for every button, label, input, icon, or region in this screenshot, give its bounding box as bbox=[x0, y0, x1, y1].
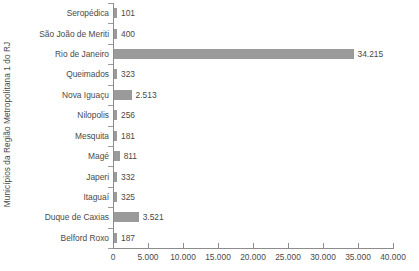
bar-chart: Municípios da Região Metropolitana 1 do … bbox=[0, 0, 419, 271]
y-tick bbox=[108, 64, 113, 65]
bar bbox=[114, 69, 117, 79]
x-tick bbox=[288, 243, 289, 249]
y-tick bbox=[108, 44, 113, 45]
bar-row: Rio de Janeiro34.215 bbox=[0, 44, 419, 64]
y-tick bbox=[108, 187, 113, 188]
bar bbox=[114, 151, 120, 161]
category-label: Rio de Janeiro bbox=[18, 49, 109, 59]
bar-row: Seropédica101 bbox=[0, 3, 419, 23]
category-label: Itaguaí bbox=[18, 192, 109, 202]
bar-value-label: 181 bbox=[121, 131, 135, 141]
y-tick bbox=[108, 126, 113, 127]
x-tick bbox=[113, 243, 114, 249]
bar-row: Magé811 bbox=[0, 146, 419, 166]
x-tick-label: 35.000 bbox=[345, 252, 371, 262]
bar-row: Belford Roxo187 bbox=[0, 228, 419, 248]
y-tick bbox=[108, 207, 113, 208]
bar bbox=[114, 192, 117, 202]
bar-row: Nilopolis256 bbox=[0, 105, 419, 125]
x-tick-label: 40.000 bbox=[380, 252, 406, 262]
x-tick-label: 20.000 bbox=[240, 252, 266, 262]
bar bbox=[114, 212, 139, 222]
bar-row: Itaguaí325 bbox=[0, 187, 419, 207]
x-tick bbox=[183, 243, 184, 249]
y-tick bbox=[108, 146, 113, 147]
bar-value-label: 256 bbox=[121, 110, 135, 120]
bar-row: Japeri332 bbox=[0, 166, 419, 186]
bar bbox=[114, 131, 117, 141]
bar-value-label: 811 bbox=[124, 151, 137, 161]
x-tick-label: 0 bbox=[111, 252, 116, 262]
bar bbox=[114, 29, 117, 39]
bar bbox=[114, 233, 117, 243]
x-tick-label: 30.000 bbox=[310, 252, 336, 262]
bar bbox=[114, 110, 117, 120]
bar bbox=[114, 90, 132, 100]
bar-row: Mesquita181 bbox=[0, 126, 419, 146]
category-label: Belford Roxo bbox=[18, 233, 109, 243]
x-tick bbox=[393, 243, 394, 249]
bar bbox=[114, 49, 354, 59]
x-tick-label: 15.000 bbox=[205, 252, 231, 262]
category-label: São João de Meriti bbox=[18, 29, 109, 39]
bar-value-label: 325 bbox=[121, 192, 135, 202]
x-tick-label: 25.000 bbox=[275, 252, 301, 262]
bar-value-label: 187 bbox=[121, 233, 135, 243]
category-label: Queimados bbox=[18, 69, 109, 79]
x-tick bbox=[358, 243, 359, 249]
y-tick bbox=[108, 166, 113, 167]
y-tick bbox=[108, 105, 113, 106]
x-tick bbox=[218, 243, 219, 249]
bar-row: Nova Iguaçu2.513 bbox=[0, 85, 419, 105]
bar-value-label: 101 bbox=[121, 8, 135, 18]
bar-row: Duque de Caxias3.521 bbox=[0, 207, 419, 227]
bar-value-label: 2.513 bbox=[136, 90, 157, 100]
x-tick-label: 5.000 bbox=[138, 252, 159, 262]
category-label: Magé bbox=[18, 151, 109, 161]
bar-row: Queimados323 bbox=[0, 64, 419, 84]
y-tick bbox=[108, 228, 113, 229]
category-label: Nilopolis bbox=[18, 110, 109, 120]
bar bbox=[114, 172, 117, 182]
category-label: Mesquita bbox=[18, 131, 109, 141]
y-tick bbox=[108, 23, 113, 24]
bar-value-label: 332 bbox=[121, 172, 135, 182]
category-label: Nova Iguaçu bbox=[18, 90, 109, 100]
x-tick bbox=[323, 243, 324, 249]
bar-value-label: 323 bbox=[121, 69, 135, 79]
y-tick bbox=[108, 3, 113, 4]
x-tick-label: 10.000 bbox=[170, 252, 196, 262]
bar-row: São João de Meriti400 bbox=[0, 23, 419, 43]
category-label: Japeri bbox=[18, 172, 109, 182]
bar-value-label: 3.521 bbox=[143, 212, 164, 222]
bar-value-label: 34.215 bbox=[358, 49, 384, 59]
x-tick bbox=[253, 243, 254, 249]
x-tick bbox=[148, 243, 149, 249]
category-label: Duque de Caxias bbox=[18, 212, 109, 222]
bar-value-label: 400 bbox=[121, 29, 135, 39]
y-tick bbox=[108, 85, 113, 86]
bar bbox=[114, 8, 117, 18]
category-label: Seropédica bbox=[18, 8, 109, 18]
